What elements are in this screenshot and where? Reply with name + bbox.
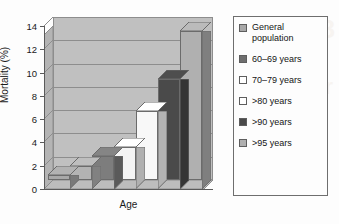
legend-item[interactable]: >90 years — [239, 117, 323, 128]
y-axis-tick-label: 14 — [26, 21, 37, 32]
legend-item[interactable]: General population — [239, 22, 323, 43]
legend-swatch — [239, 97, 247, 105]
legend-swatch — [239, 118, 247, 126]
bar — [48, 175, 70, 180]
legend-swatch — [239, 24, 247, 32]
legend-item[interactable]: >80 years — [239, 96, 323, 107]
y-axis-tick-label: 12 — [26, 44, 37, 55]
y-axis-tick-label: 4 — [32, 137, 37, 148]
bar-face — [48, 175, 70, 180]
chart-legend: General population60–69 years70–79 years… — [233, 16, 328, 196]
y-axis-tick-label: 2 — [32, 160, 37, 171]
bar-top — [136, 102, 158, 111]
legend-item[interactable]: 70–79 years — [239, 75, 323, 86]
x-axis-title: Age — [44, 199, 213, 210]
legend-swatch — [239, 76, 247, 84]
bar-side — [92, 166, 101, 180]
x-axis-line — [44, 189, 213, 190]
chart-figure: 8 older patients 02468101214 Mortality (… — [0, 0, 339, 224]
legend-item-label: >80 years — [252, 96, 292, 107]
legend-swatch — [239, 55, 247, 63]
legend-item-label: >95 years — [252, 138, 292, 149]
bar-side — [202, 31, 211, 180]
y-axis-tick-label: 10 — [26, 67, 37, 78]
bar-side — [158, 111, 167, 180]
legend-item[interactable]: 60–69 years — [239, 54, 323, 65]
bar-top — [180, 22, 202, 31]
legend-item-label: 60–69 years — [252, 54, 302, 65]
bar-top — [48, 166, 70, 175]
bar-top — [158, 70, 180, 79]
legend-item-label: General population — [252, 22, 323, 43]
bar-top — [92, 147, 114, 156]
bar-series — [45, 17, 213, 189]
y-axis-tick-label: 6 — [32, 114, 37, 125]
y-axis-title: Mortality (%) — [0, 47, 10, 103]
bar-side — [136, 147, 145, 180]
legend-item[interactable]: >95 years — [239, 138, 323, 149]
bar-top — [70, 157, 92, 166]
legend-item-label: >90 years — [252, 117, 292, 128]
bar-side — [114, 156, 123, 180]
bar-side — [70, 175, 79, 180]
y-axis-tick-label: 8 — [32, 90, 37, 101]
legend-item-label: 70–79 years — [252, 75, 302, 86]
legend-swatch — [239, 139, 247, 147]
bar-side — [180, 79, 189, 180]
y-axis-tick-label: 0 — [32, 184, 37, 195]
plot-area: 02468101214 — [44, 17, 213, 189]
